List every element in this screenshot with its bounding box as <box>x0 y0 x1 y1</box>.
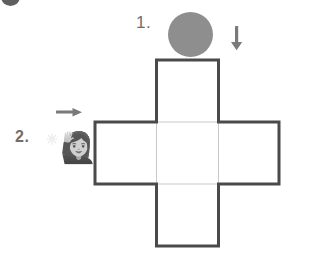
step-2-number-label: 2. <box>15 129 29 145</box>
clipped-dark-circle-icon <box>1 0 20 6</box>
sparkle-icon <box>46 133 58 145</box>
gray-disc-icon <box>168 12 213 57</box>
person-raising-hand-icon: 🙋‍♀️ <box>60 126 92 170</box>
down-arrow-icon <box>226 25 248 55</box>
step-1-number-label: 1. <box>136 14 151 31</box>
cube-net-cross <box>93 58 281 248</box>
diagram-canvas: 1. 2. 🙋‍♀️ <box>0 0 321 257</box>
net-fill <box>95 60 279 246</box>
right-arrow-icon <box>55 105 87 125</box>
